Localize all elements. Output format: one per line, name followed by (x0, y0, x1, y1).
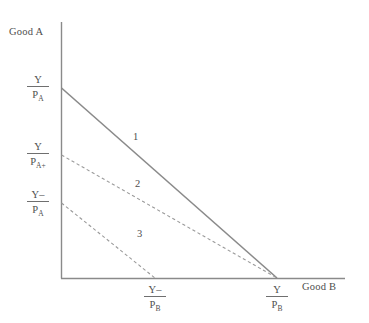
y-tick-label-1: Y PA+ (21, 141, 55, 167)
curve-label-3: 3 (137, 228, 142, 239)
figure-canvas: Good A Good B Y PA Y PA+ Y– PA Y– PB Y P… (0, 0, 369, 323)
curve-label-1: 1 (133, 131, 138, 142)
x-tick-0-denominator: PB (138, 298, 172, 310)
curve-label-2: 2 (135, 178, 140, 189)
budget-line-3 (62, 203, 156, 278)
budget-line-1 (62, 88, 278, 278)
x-tick-0-numerator: Y– (138, 284, 172, 296)
budget-constraint-chart (0, 0, 369, 323)
y-tick-label-2: Y– PA (21, 189, 55, 215)
x-tick-label-0: Y– PB (138, 284, 172, 310)
x-tick-1-numerator: Y (260, 284, 294, 296)
budget-line-2 (62, 155, 278, 278)
y-axis-title: Good A (9, 26, 43, 37)
x-tick-label-1: Y PB (260, 284, 294, 310)
y-tick-2-fraction-bar (27, 201, 49, 202)
y-tick-label-0: Y PA (21, 74, 55, 100)
y-tick-2-denominator: PA (21, 203, 55, 215)
x-tick-1-denominator: PB (260, 298, 294, 310)
y-tick-1-fraction-bar (27, 153, 49, 154)
y-tick-1-denominator: PA+ (21, 155, 55, 167)
y-tick-0-numerator: Y (21, 74, 55, 86)
x-tick-0-fraction-bar (144, 296, 166, 297)
y-tick-1-numerator: Y (21, 141, 55, 153)
x-tick-1-fraction-bar (266, 296, 288, 297)
y-tick-0-fraction-bar (27, 86, 49, 87)
x-axis-title: Good B (302, 281, 336, 292)
y-tick-0-denominator: PA (21, 88, 55, 100)
y-tick-2-numerator: Y– (21, 189, 55, 201)
